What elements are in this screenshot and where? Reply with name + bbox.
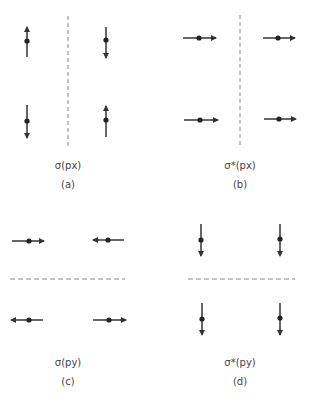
diagram-canvas — [0, 0, 312, 402]
vector-arrow-right — [184, 117, 218, 122]
vector-arrow-right — [263, 35, 295, 40]
vector-arrow-up — [103, 106, 108, 137]
panel-b — [183, 15, 296, 145]
panel-sublabel: (c) — [48, 376, 88, 387]
vector-arrow-down — [103, 27, 108, 58]
vector-arrow-right — [93, 317, 126, 322]
orbital-label: σ(py) — [28, 357, 108, 368]
orbital-label: σ(px) — [28, 160, 108, 171]
vector-arrow-up — [24, 27, 29, 57]
vector-arrow-right — [12, 238, 44, 243]
panel-d — [188, 224, 295, 335]
vector-arrow-down — [199, 303, 204, 335]
vector-arrow-right — [183, 35, 216, 40]
panel-sublabel: (b) — [220, 179, 260, 190]
panel-sublabel: (a) — [48, 179, 88, 190]
vector-arrow-left — [11, 317, 43, 322]
vector-arrow-down — [277, 224, 282, 256]
vector-arrow-down — [198, 224, 203, 256]
vector-arrow-down — [277, 303, 282, 335]
orbital-label: σ*(px) — [200, 160, 280, 171]
vector-arrow-right — [264, 116, 296, 121]
vector-arrow-down — [24, 105, 29, 138]
panel-sublabel: (d) — [220, 376, 260, 387]
panel-c — [10, 237, 126, 322]
panel-a — [24, 16, 108, 146]
orbital-label: σ*(py) — [200, 357, 280, 368]
vector-arrow-left — [93, 237, 124, 242]
